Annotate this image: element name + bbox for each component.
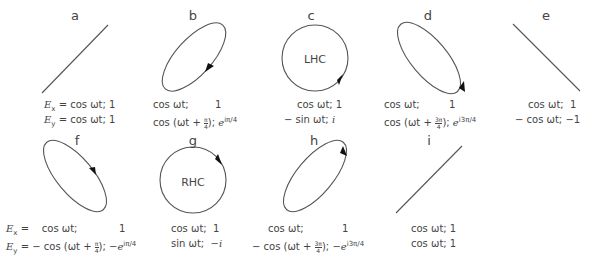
panel-g-ey-equation: sin ωt; −i (171, 238, 222, 250)
panel-f-arrow-icon (89, 167, 96, 175)
panel-a-ey-equation: Ey = cos ωt; 1 (44, 114, 115, 130)
panel-f-ey-equation: Ey = − cos (ωt + π4); −eiπ/4 (6, 238, 136, 257)
panel-c-arrow-icon (337, 74, 343, 85)
panel-f-ex-equation: Ex = cos ωt;1 (6, 223, 77, 239)
panel-e-ey-equation: − cos ωt; −1 (515, 114, 580, 126)
panel-c-ex-equation: cos ωt; 1 (297, 99, 342, 111)
panel-b-label: b (189, 8, 197, 23)
panel-e-label: e (542, 8, 550, 23)
panel-d-ellipse-trace (387, 13, 471, 104)
panel-g-label: g (189, 133, 197, 148)
panel-e-ex-equation: cos ωt; 1 (528, 99, 576, 111)
panel-i-ex-equation: cos ωt; 1 (411, 223, 456, 235)
panel-a-linear-trace (42, 25, 108, 93)
panel-c-ey-equation: − sin ωt; i (284, 114, 335, 126)
panel-g-rhc-label: RHC (181, 176, 205, 189)
panel-b-ex-equation: cos ωt;1 (153, 99, 189, 111)
panel-h-label: h (310, 133, 318, 148)
panel-d-label: d (424, 8, 432, 23)
panel-a-ex-equation: Ex = cos ωt; 1 (44, 99, 115, 115)
panel-e-linear-trace (513, 24, 580, 91)
panel-a-label: a (71, 8, 79, 23)
panel-c-lhc-label: LHC (304, 53, 326, 66)
panel-g-ex-equation: cos ωt; 1 (171, 223, 219, 235)
panel-f-label: f (75, 133, 80, 148)
panel-h-ex-equation: cos ωt;1 (268, 223, 304, 235)
panel-d-ex-equation: cos ωt;1 (384, 99, 420, 111)
panel-c-label: c (307, 8, 314, 23)
panel-i-label: i (427, 133, 431, 148)
panel-d-ey-equation: cos (ωt + 3π4); ei3π/4 (384, 114, 476, 130)
panel-b-arrow-icon (205, 63, 214, 72)
panel-h-ey-equation: − cos (ωt + 3π4); −ei3π/4 (252, 238, 364, 254)
panel-b-ey-equation: cos (ωt + π4); eiπ/4 (153, 114, 237, 130)
panel-i-ey-equation: cos ωt; 1 (411, 238, 456, 250)
panel-b-ellipse-trace (152, 13, 236, 101)
panel-i-linear-trace (396, 146, 462, 213)
